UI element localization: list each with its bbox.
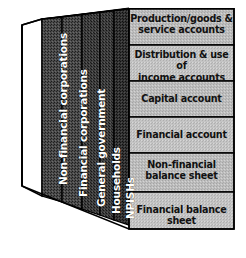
back-side-panel	[22, 19, 42, 196]
account-row-financial-balance-sheet	[129, 192, 234, 229]
diagram-canvas: Non-financial corporations Financial cor…	[0, 0, 246, 258]
account-row-non-financial-balance-sheet	[129, 153, 234, 192]
sector-slab-households	[100, 11, 114, 220]
sector-slab-non-financial-corporations	[42, 17, 62, 202]
account-row-financial-account	[129, 117, 234, 153]
sector-slab-general-government	[82, 12, 100, 215]
account-row-capital-account	[129, 81, 234, 117]
account-row-distribution-use-of-income	[129, 45, 234, 81]
diagram-svg	[0, 0, 246, 258]
accounts-face	[129, 9, 234, 229]
sector-slab-financial-corporations	[62, 15, 82, 210]
account-row-production-goods-service	[129, 9, 234, 45]
sector-slab-npishs	[114, 9, 129, 225]
